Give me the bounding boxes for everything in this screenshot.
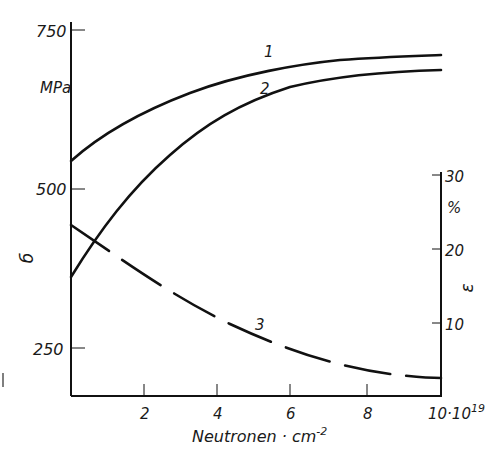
y-right-unit: % (447, 199, 461, 217)
y-right-tick-label-10: 10 (445, 316, 464, 334)
x-tick-10-base: 10·10 (428, 405, 471, 423)
x-tick-label-4: 4 (213, 405, 223, 423)
x-axis-title: Neutronen · cm-2 (192, 425, 327, 446)
y-left-tick-label-250: 250 (33, 340, 64, 359)
x-tick-label-8: 8 (363, 405, 373, 423)
x-axis-title-base: Neutronen · cm (192, 427, 316, 446)
x-tick-10-exp: 19 (471, 402, 485, 415)
y-left-tick-label-750: 750 (36, 22, 67, 41)
x-tick-label-2: 2 (140, 405, 150, 423)
curve-3-dashed (71, 225, 441, 378)
chart: 750 MPa 500 250 б 30 % 20 ε 10 2 4 6 8 1… (0, 0, 497, 458)
y-right-axis-label: ε (457, 283, 477, 292)
x-axis-title-exp: -2 (316, 425, 327, 438)
curve-2 (71, 70, 441, 277)
curve-1 (71, 55, 441, 161)
axes (71, 22, 442, 396)
y-right-tick-label-30: 30 (445, 168, 464, 186)
y-left-axis-label: б (17, 253, 37, 263)
curve-label-3: 3 (255, 316, 265, 334)
curve-label-2: 2 (260, 80, 270, 98)
x-tick-label-10: 10·1019 (428, 402, 485, 423)
curve-label-1: 1 (264, 43, 274, 61)
x-tick-label-6: 6 (286, 405, 296, 423)
y-right-tick-label-20: 20 (445, 242, 464, 260)
y-left-unit: MPa (40, 79, 71, 97)
y-left-tick-label-500: 500 (36, 180, 67, 199)
